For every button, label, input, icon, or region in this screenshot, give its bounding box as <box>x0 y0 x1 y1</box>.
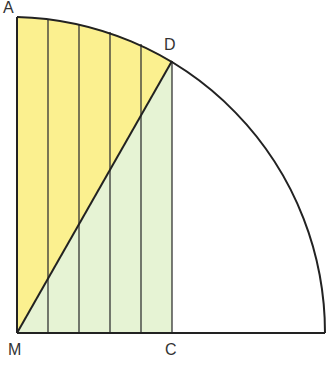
label-m: M <box>8 342 21 358</box>
label-c: C <box>165 342 177 358</box>
label-d: D <box>164 37 176 53</box>
label-a: A <box>3 0 14 16</box>
quarter-circle-diagram <box>0 0 327 366</box>
